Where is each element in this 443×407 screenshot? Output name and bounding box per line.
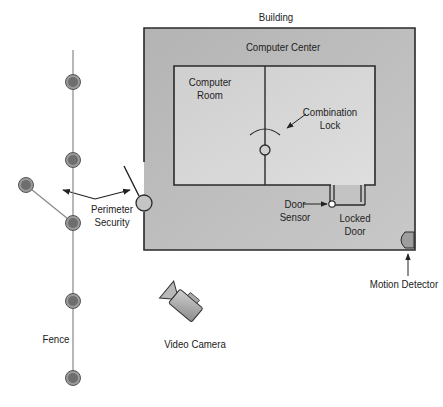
- locked-door-label-line2: Door: [333, 225, 377, 238]
- perimeter-security-label-line2: Security: [86, 216, 139, 229]
- door-sensor-label-line1: Door: [277, 198, 312, 211]
- video-camera-label: Video Camera: [160, 338, 230, 351]
- fence-post-icon: [66, 371, 81, 386]
- combination-lock-label-line2: Lock: [295, 119, 365, 132]
- fence-post-icon: [66, 75, 81, 90]
- fence-post-icon: [19, 178, 34, 193]
- fence-post-icon: [66, 153, 81, 168]
- motion-detector-label: Motion Detector: [360, 278, 443, 291]
- perimeter-security-label-line1: Perimeter: [86, 203, 139, 216]
- video-camera-icon: [160, 280, 206, 324]
- computer-room-label-line2: Room: [184, 89, 237, 102]
- fence-post-icon: [66, 216, 81, 231]
- door-sensor-label-line2: Sensor: [277, 211, 312, 224]
- locked-door-label-line1: Locked: [333, 212, 377, 225]
- building-label: Building: [250, 11, 303, 24]
- computer-center-label: Computer Center: [235, 41, 332, 54]
- motion-detector-icon: [401, 232, 414, 248]
- combination-lock-label-line1: Combination: [295, 106, 365, 119]
- computer-room-label-line1: Computer: [184, 76, 237, 89]
- door-sensor-icon: [329, 201, 335, 207]
- fence-label: Fence: [42, 333, 70, 346]
- fence-post-icon: [66, 294, 81, 309]
